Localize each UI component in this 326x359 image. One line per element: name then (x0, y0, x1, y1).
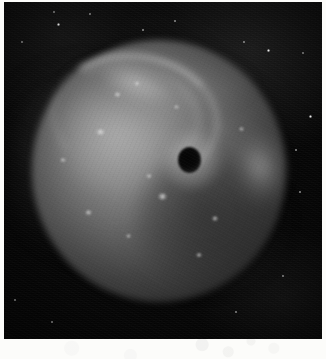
field-star (174, 20, 176, 22)
field-star (21, 41, 23, 43)
dark-central-spot (178, 147, 201, 173)
bright-knot (174, 105, 179, 109)
photographic-plate (4, 2, 322, 339)
bright-knot (146, 174, 152, 178)
bright-knot (95, 129, 106, 135)
bright-knot (134, 81, 140, 86)
field-star (267, 49, 270, 52)
bright-knot (212, 216, 218, 221)
bright-knot (114, 92, 121, 97)
bright-knot (239, 127, 244, 131)
field-star (309, 115, 312, 118)
field-star (302, 52, 304, 54)
field-star (14, 299, 16, 301)
bright-knot (196, 253, 202, 257)
field-star (235, 311, 237, 313)
field-star (142, 29, 144, 31)
field-star (299, 191, 301, 193)
bright-knot (85, 210, 92, 215)
plate-scan-page (0, 0, 326, 359)
field-star (89, 13, 91, 15)
field-star (282, 275, 284, 277)
bright-knot (158, 193, 167, 200)
field-star (295, 149, 297, 151)
field-star (57, 23, 60, 26)
field-star (53, 11, 55, 13)
field-star (243, 41, 245, 43)
field-star (51, 321, 53, 323)
bright-knot (60, 158, 66, 162)
bright-knot (126, 234, 131, 238)
